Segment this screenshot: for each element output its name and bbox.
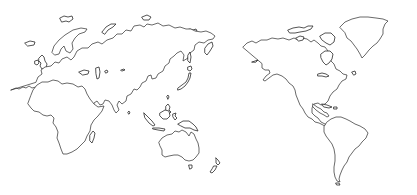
iceland (25, 41, 35, 46)
sakhalin (188, 52, 191, 63)
greenland (340, 17, 388, 58)
north-america (243, 38, 347, 127)
world-outline-map (0, 0, 417, 195)
sri-lanka (128, 111, 130, 114)
aleutian-islands (252, 60, 258, 62)
tasmania (189, 165, 192, 169)
caspian-sea (96, 67, 100, 79)
australia (159, 130, 199, 161)
taiwan (167, 95, 169, 99)
ireland (35, 60, 39, 65)
south-america (324, 117, 368, 182)
tierra-del-fuego (336, 183, 340, 185)
newfoundland (352, 71, 356, 75)
cuba (322, 104, 332, 108)
sulawesi (173, 113, 177, 120)
hispaniola (334, 107, 337, 109)
aral-sea (105, 70, 108, 73)
java (153, 128, 165, 131)
hokkaido (188, 66, 192, 71)
novaya-zemlya (102, 24, 116, 34)
sumatra (144, 113, 155, 126)
arctic-archipelago (288, 26, 313, 33)
new-zealand-south (210, 166, 217, 173)
baffin-island (320, 33, 335, 45)
svalbard (60, 16, 73, 22)
kamchatka (205, 42, 213, 55)
severnaya-zemlya (142, 15, 151, 20)
madagascar (90, 131, 95, 143)
new-zealand-north (216, 158, 220, 165)
borneo (160, 110, 170, 119)
japan (178, 73, 191, 90)
new-guinea (178, 121, 198, 131)
